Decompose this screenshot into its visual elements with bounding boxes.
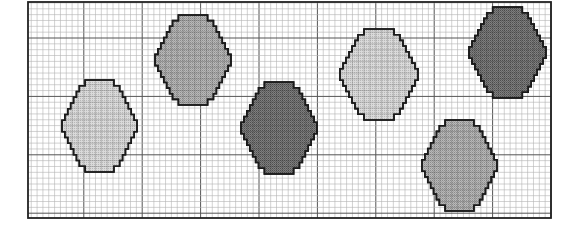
oval-1-shape	[60, 79, 142, 172]
oval-5-shape	[463, 3, 551, 102]
oval-3-shape	[236, 79, 318, 178]
grid-chart	[0, 0, 570, 237]
oval-6-shape	[417, 120, 499, 213]
oval-2-shape	[154, 15, 236, 108]
oval-4-shape	[335, 26, 423, 125]
